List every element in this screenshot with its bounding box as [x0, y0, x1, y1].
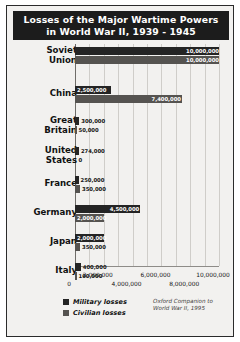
bar-value-label: 10,000,000	[186, 56, 219, 64]
bar-rect	[75, 126, 77, 134]
bar-rect	[75, 117, 79, 125]
legend-item-military: Military losses	[63, 298, 127, 306]
bar-civilian: 350,000	[75, 243, 219, 251]
bar-rect	[75, 176, 79, 184]
bar-military: 300,000	[75, 117, 219, 125]
bar-military: 400,000	[75, 263, 219, 271]
category-label-line-2: Union	[49, 55, 77, 65]
bar-rect	[75, 185, 80, 193]
bar-value-label: 400,000	[83, 263, 107, 271]
bar-civilian: 350,000	[75, 185, 219, 193]
category-label-line-1: Japan	[50, 236, 77, 246]
x-tick-label: 10,000,000	[196, 272, 230, 278]
source-line-2: World War II, 1995	[153, 305, 205, 311]
bar-military: 10,000,000	[75, 47, 219, 55]
bar-value-label: 350,000	[82, 185, 106, 193]
bar-group: 300,00050,000	[75, 117, 219, 135]
bar-civilian: 2,000,000	[75, 214, 219, 222]
bar-civilian: 7,400,000	[75, 95, 219, 103]
bar-rect	[75, 263, 81, 271]
bar-group: 4,500,0002,000,000	[75, 205, 219, 223]
x-tick-label: 0	[67, 281, 71, 287]
plot-area: SovietUnion10,000,00010,000,000China2,50…	[13, 44, 229, 270]
category-label-line-1: Great	[50, 115, 77, 125]
bar-group: 2,000,000350,000	[75, 234, 219, 252]
x-tick-label: 6,000,000	[140, 272, 170, 278]
category-label: UnitedStates	[0, 146, 77, 165]
bar-civilian: 50,000	[75, 126, 219, 134]
bar-group: 10,000,00010,000,000	[75, 47, 219, 65]
bar-value-label: 350,000	[82, 243, 106, 251]
bar-group: 250,000350,000	[75, 176, 219, 194]
bar-value-label: 4,500,000	[110, 205, 139, 213]
title-line-1: Losses of the Major Wartime Powers	[24, 14, 219, 25]
bar-military: 2,000,000	[75, 234, 219, 242]
bar-military: 274,000	[75, 147, 219, 155]
bar-value-label: 250,000	[81, 176, 105, 184]
title-line-2: in World War II, 1939 - 1945	[46, 26, 196, 37]
bar-military: 4,500,000	[75, 205, 219, 213]
category-label: SovietUnion	[0, 46, 77, 65]
category-label: Japan	[0, 237, 77, 247]
bar-rect	[75, 147, 79, 155]
legend-label-civilian: Civilian losses	[73, 309, 126, 317]
source-citation: Oxford Companion to World War II, 1995	[153, 298, 231, 312]
page-title: Losses of the Major Wartime Powers in Wo…	[24, 14, 219, 37]
legend-swatch-military-icon	[63, 299, 69, 305]
legend-label-military: Military losses	[73, 298, 127, 306]
category-label-line-1: France	[45, 178, 77, 188]
bar-value-label: 2,500,000	[77, 86, 106, 94]
chart-legend: Military losses Civilian losses	[63, 298, 127, 320]
category-label-line-1: Germany	[33, 207, 77, 217]
bar-group: 2,500,0007,400,000	[75, 86, 219, 104]
bar-value-label: 0	[79, 156, 83, 164]
chart-title-bar: Losses of the Major Wartime Powers in Wo…	[13, 11, 229, 40]
category-label-line-1: Soviet	[46, 45, 77, 55]
bar-rect	[75, 243, 80, 251]
category-label-line-2: States	[46, 155, 77, 165]
bar-value-label: 2,000,000	[77, 234, 106, 242]
bar-value-label: 2,000,000	[77, 214, 106, 222]
bar-value-label: 274,000	[81, 147, 105, 155]
source-line-1: Oxford Companion to	[153, 298, 213, 304]
bar-military: 250,000	[75, 176, 219, 184]
bar-military: 2,500,000	[75, 86, 219, 94]
x-axis-tick-labels: 02,000,0004,000,0006,000,0008,000,00010,…	[7, 271, 223, 293]
category-label: Germany	[0, 208, 77, 218]
bar-value-label: 7,400,000	[152, 95, 181, 103]
bar-value-label: 50,000	[79, 126, 99, 134]
bar-value-label: 10,000,000	[186, 47, 219, 55]
bar-civilian: 10,000,000	[75, 56, 219, 64]
x-tick-label: 2,000,000	[83, 272, 113, 278]
gridline	[219, 44, 220, 266]
category-label-line-1: China	[50, 88, 77, 98]
category-label-line-2: Britain	[44, 125, 77, 135]
bar-group: 274,0000	[75, 147, 219, 165]
bar-value-label: 300,000	[81, 117, 105, 125]
x-tick-label: 4,000,000	[112, 281, 142, 287]
bar-civilian: 0	[75, 156, 219, 164]
category-label-line-1: United	[45, 145, 77, 155]
category-label: France	[0, 179, 77, 189]
category-label: GreatBritain	[0, 116, 77, 135]
x-tick-label: 8,000,000	[169, 281, 199, 287]
legend-item-civilian: Civilian losses	[63, 309, 127, 317]
chart-figure: Losses of the Major Wartime Powers in Wo…	[6, 5, 234, 337]
legend-swatch-civilian-icon	[63, 310, 69, 316]
category-label: China	[0, 89, 77, 99]
